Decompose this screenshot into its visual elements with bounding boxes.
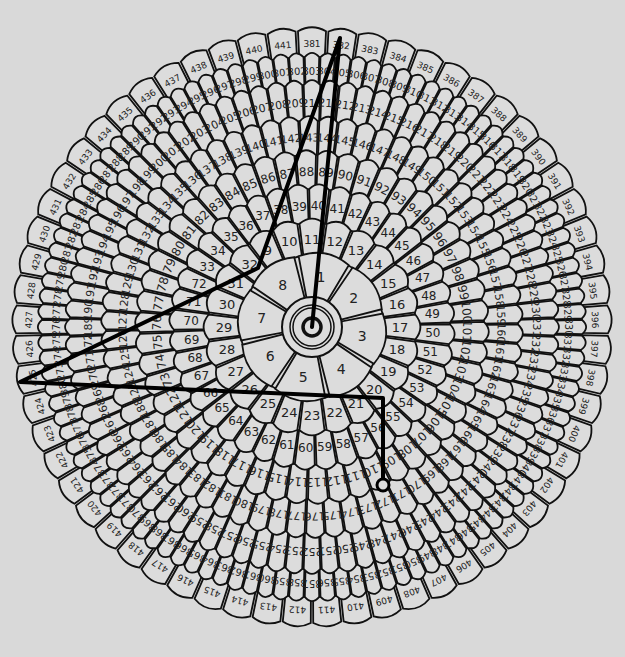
petal-number: 65: [214, 401, 229, 415]
petal-number: 50: [425, 326, 440, 340]
petal-number: 28: [219, 342, 236, 357]
route-end-marker: [377, 479, 389, 491]
petal-number: 3: [358, 328, 367, 344]
petal-number: 68: [187, 351, 202, 365]
petal-number: 54: [398, 396, 413, 410]
petal-number: 61: [279, 438, 294, 452]
petal-number: 8: [278, 277, 287, 293]
petal-number: 70: [184, 314, 199, 328]
petal-number: 7: [257, 310, 266, 326]
petal-number: 43: [365, 215, 380, 229]
petal-number: 60: [298, 441, 313, 455]
petal-number: 25: [260, 396, 277, 411]
petal-number: 39: [292, 200, 307, 214]
petal-number: 69: [184, 333, 199, 347]
petal-number: 396: [590, 311, 600, 329]
petal-number: 52: [417, 363, 432, 377]
petal-number: 45: [394, 239, 409, 253]
petal-number: 57: [354, 431, 369, 445]
petal-number: 426: [24, 340, 35, 358]
petal-number: 397: [589, 340, 600, 358]
petal-number: 59: [317, 440, 332, 454]
petal-number: 12: [327, 234, 344, 249]
petal-number: 11: [304, 232, 321, 247]
acupoint-lotus-diagram: 3813823833843853863873883893903913923933…: [0, 0, 625, 657]
petal-number: 14: [366, 257, 383, 272]
petal-number: 24: [281, 405, 298, 420]
petal-number: 47: [415, 271, 430, 285]
petal-number: 10: [281, 234, 298, 249]
petal-number: 33: [200, 260, 215, 274]
petal-number: 4: [337, 361, 346, 377]
petal-number: 58: [336, 437, 351, 451]
petal-number: 53: [409, 381, 424, 395]
petal-number: 75: [150, 334, 165, 351]
petal-number: 37: [255, 209, 270, 223]
petal-number: 51: [423, 345, 438, 359]
petal-number: 19: [380, 364, 397, 379]
petal-number: 63: [244, 425, 259, 439]
petal-number: 381: [303, 39, 320, 49]
petal-number: 6: [266, 348, 275, 364]
petal-number: 13: [348, 243, 365, 258]
petal-number: 55: [385, 410, 400, 424]
petal-number: 15: [380, 276, 397, 291]
petal-number: 26: [242, 382, 259, 397]
petal-number: 35: [223, 230, 238, 244]
petal-number: 5: [299, 369, 308, 385]
petal-number: 41: [330, 202, 345, 216]
petal-number: 412: [289, 604, 307, 615]
petal-number: 30: [219, 297, 236, 312]
petal-number: 411: [318, 604, 336, 615]
petal-number: 16: [389, 297, 406, 312]
petal-number: 20: [366, 382, 383, 397]
petal-number: 66: [203, 386, 218, 400]
petal-number: 22: [327, 405, 344, 420]
petal-number: 29: [216, 320, 233, 335]
petal-number: 44: [381, 226, 396, 240]
petal-number: 27: [228, 364, 245, 379]
petal-number: 88: [299, 165, 315, 180]
petal-number: 49: [425, 307, 440, 321]
petal-number: 18: [389, 342, 406, 357]
petal-number: 62: [261, 433, 276, 447]
petal-number: 42: [348, 207, 363, 221]
petal-number: 36: [238, 219, 253, 233]
petal-number: 17: [392, 320, 409, 335]
petal-number: 67: [194, 369, 209, 383]
petal-number: 48: [421, 289, 436, 303]
petal-number: 427: [24, 311, 34, 328]
petal-number: 46: [406, 254, 421, 268]
petal-number: 72: [191, 277, 206, 291]
petal-number: 64: [228, 414, 243, 428]
petal-number: 2: [349, 290, 358, 306]
petal-number: 34: [210, 244, 225, 258]
petal-number: 23: [304, 408, 321, 423]
petal-number: 441: [274, 40, 292, 52]
petal-number: 77: [151, 295, 167, 312]
